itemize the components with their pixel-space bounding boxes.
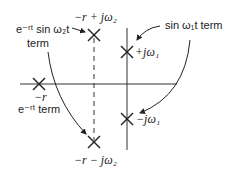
- label-plus-jw1: +jω₁: [135, 45, 159, 59]
- label-neg-r: −r: [34, 90, 47, 104]
- label-upper-complex: −r + jω₂: [74, 10, 117, 24]
- diagram-canvas: −r + jω₂ −r − jω₂ −r +jω₁ −jω₁ e⁻ʳᵗ sin …: [0, 0, 238, 172]
- annotation-damped-sine: e⁻ʳᵗ sin ω₂t: [16, 23, 69, 35]
- arrow-damped-sine: [72, 28, 85, 32]
- annotation-damped-sine-term: term: [27, 37, 49, 49]
- label-lower-complex: −r − jω₂: [74, 153, 117, 167]
- s-plane-diagram: −r + jω₂ −r − jω₂ −r +jω₁ −jω₁ e⁻ʳᵗ sin …: [0, 0, 238, 172]
- label-minus-jw1: −jω₁: [136, 112, 160, 126]
- arrow-sine-top: [137, 26, 160, 40]
- annotation-sine-term: sin ω₁t term: [165, 19, 223, 31]
- annotation-exp-term: e⁻ʳᵗ term: [18, 103, 60, 115]
- arrow-exp-curve: [48, 52, 86, 134]
